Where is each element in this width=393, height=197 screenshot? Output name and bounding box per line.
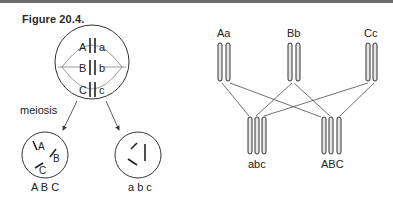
parent-pair-Cc: Cc (364, 27, 378, 81)
meiosis-diagram: A a B b C c meiosis A B C A B C a b c Aa… (0, 0, 393, 197)
daughter-label-C: C (39, 165, 46, 176)
label-C: C (79, 84, 87, 96)
daughter-cell-ABC: A B C (22, 132, 68, 178)
parent-pair-Bb: Bb (287, 27, 300, 81)
svg-text:Cc: Cc (364, 27, 378, 39)
svg-text:abc: abc (248, 158, 266, 170)
arrow-right (106, 101, 119, 130)
parent-pair-Aa: Aa (217, 27, 231, 81)
label-b: b (99, 62, 105, 74)
caption-abc: a b c (128, 181, 152, 193)
arrow-left (63, 101, 77, 130)
daughter-cell-abc (115, 132, 161, 178)
daughter-label-A: A (38, 141, 45, 152)
label-c: c (99, 84, 105, 96)
label-A: A (79, 41, 87, 53)
caption-ABC: A B C (31, 181, 59, 193)
label-B: B (79, 62, 86, 74)
svg-text:ABC: ABC (321, 158, 344, 170)
svg-text:Aa: Aa (217, 27, 231, 39)
svg-text:Bb: Bb (287, 27, 300, 39)
gamete-ABC: ABC (321, 117, 344, 170)
daughter-label-B: B (53, 153, 60, 164)
label-a: a (99, 41, 106, 53)
gamete-abc: abc (248, 117, 266, 170)
meiosis-label: meiosis (20, 104, 58, 116)
parent-cell: A a B b C c (55, 25, 129, 99)
segregation-lines (222, 83, 374, 117)
